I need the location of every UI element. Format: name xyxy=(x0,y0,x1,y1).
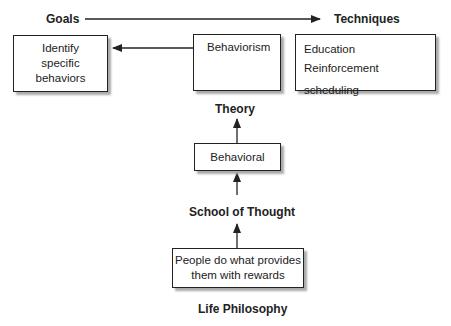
theory-box-text: Behaviorism xyxy=(207,41,280,53)
school-box-text: Behavioral xyxy=(210,150,264,165)
goals-box-line: behaviors xyxy=(36,71,86,86)
philosophy-box-line: them with rewards xyxy=(191,268,284,283)
school-of-thought-label: School of Thought xyxy=(189,205,295,219)
techniques-label: Techniques xyxy=(334,12,400,26)
technique-item: Reinforcement scheduling xyxy=(304,57,435,101)
techniques-box: Education Reinforcement scheduling xyxy=(295,34,436,91)
goals-box-line: specific xyxy=(41,56,79,71)
goals-label: Goals xyxy=(46,12,79,26)
theory-label: Theory xyxy=(215,102,255,116)
goals-box: Identify specific behaviors xyxy=(13,35,108,92)
theory-box: Behaviorism xyxy=(193,34,281,91)
life-philosophy-label: Life Philosophy xyxy=(198,302,287,316)
technique-item: Education xyxy=(304,41,435,57)
philosophy-box-line: People do what provides xyxy=(175,253,301,268)
philosophy-box: People do what provides them with reward… xyxy=(172,248,304,288)
goals-box-line: Identify xyxy=(42,41,79,56)
school-box: Behavioral xyxy=(194,143,281,171)
